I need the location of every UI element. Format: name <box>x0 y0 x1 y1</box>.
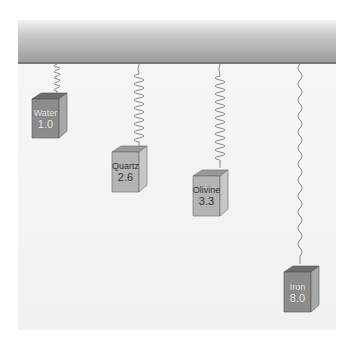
density-value: 3.3 <box>190 195 223 207</box>
material-name: Iron <box>284 282 311 292</box>
material-name: Olivine <box>190 185 223 195</box>
spring-olivine <box>215 64 225 168</box>
cube-label-iron: Iron 8.0 <box>284 282 311 304</box>
spring-iron <box>298 64 302 264</box>
material-name: Quartz <box>110 161 141 171</box>
cube-label-water: Water 1.0 <box>32 108 59 130</box>
cube-label-olivine: Olivine 3.3 <box>190 185 223 207</box>
spring-quartz <box>134 64 144 150</box>
density-value: 8.0 <box>284 292 311 304</box>
density-value: 1.0 <box>32 118 59 130</box>
spring-water <box>54 64 60 97</box>
material-name: Water <box>32 108 59 118</box>
density-value: 2.6 <box>110 171 141 183</box>
cube-label-quartz: Quartz 2.6 <box>110 161 141 183</box>
